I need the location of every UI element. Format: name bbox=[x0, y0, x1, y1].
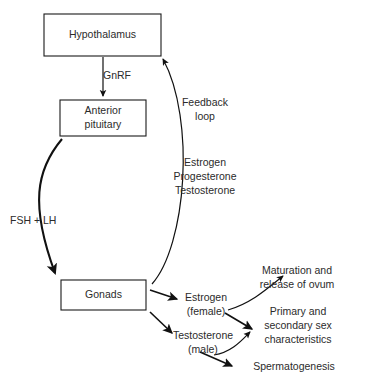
label-layer: GnRF Feedback loop Estrogen Progesterone… bbox=[10, 69, 335, 372]
maturation-ovum-label-line1: Maturation and bbox=[262, 264, 332, 276]
node-anterior-pituitary: Anterior pituitary bbox=[60, 100, 146, 136]
maturation-ovum-label-line2: release of ovum bbox=[260, 278, 335, 290]
node-gonads: Gonads bbox=[61, 280, 146, 310]
connector-gonads-to-testosterone bbox=[150, 312, 172, 333]
anterior-pituitary-label-line1: Anterior bbox=[85, 104, 122, 116]
testosterone-male-label-line1: Testosterone bbox=[173, 329, 233, 341]
gonads-label: Gonads bbox=[85, 288, 122, 300]
feedback-progesterone-label: Progesterone bbox=[173, 170, 236, 182]
gnrf-label: GnRF bbox=[103, 69, 131, 81]
spermatogenesis-label: Spermatogenesis bbox=[253, 360, 335, 372]
endocrine-flow-diagram: Hypothalamus Anterior pituitary Gonads G… bbox=[0, 0, 379, 384]
testosterone-male-label-line2: (male) bbox=[188, 343, 218, 355]
sex-characteristics-label-line2: secondary sex bbox=[264, 319, 332, 331]
estrogen-female-label-line2: (female) bbox=[187, 305, 226, 317]
feedback-loop-label-line2: loop bbox=[195, 110, 215, 122]
feedback-loop-label-line1: Feedback bbox=[182, 96, 229, 108]
anterior-pituitary-label-line2: pituitary bbox=[85, 118, 123, 130]
node-hypothalamus: Hypothalamus bbox=[44, 14, 161, 56]
connector-pituitary-to-gonads bbox=[39, 139, 62, 273]
sex-characteristics-label-line3: characteristics bbox=[264, 333, 331, 345]
feedback-estrogen-label: Estrogen bbox=[184, 156, 226, 168]
fsh-lh-label: FSH + LH bbox=[10, 214, 56, 226]
connector-estrogen-to-sex-characteristics bbox=[225, 313, 252, 329]
diagram-canvas: Hypothalamus Anterior pituitary Gonads G… bbox=[0, 0, 379, 384]
hypothalamus-label: Hypothalamus bbox=[69, 28, 136, 40]
estrogen-female-label-line1: Estrogen bbox=[185, 291, 227, 303]
connector-gonads-to-estrogen bbox=[150, 290, 177, 299]
feedback-testosterone-label: Testosterone bbox=[175, 184, 235, 196]
sex-characteristics-label-line1: Primary and bbox=[270, 305, 327, 317]
